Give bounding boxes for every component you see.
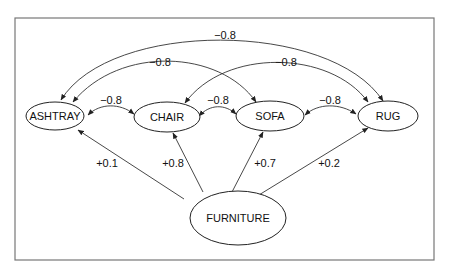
label-furniture-chair: +0.8 [162,157,184,169]
label-ashtray-rug: −0.8 [214,29,236,41]
node-rug-label: RUG [376,110,400,122]
node-chair: CHAIR [134,102,200,132]
edge-chair-sofa [199,107,236,116]
label-furniture-rug: +0.2 [318,157,340,169]
label-furniture-ashtray: +0.1 [96,157,118,169]
node-rug: RUG [358,101,418,131]
furniture-category-diagram: ASHTRAY CHAIR SOFA RUG FURNITURE −0.8 −0… [0,0,449,270]
node-furniture-label: FURNITURE [206,212,270,224]
node-ashtray: ASHTRAY [26,102,84,130]
edge-ashtray-rug [61,40,383,101]
node-ashtray-label: ASHTRAY [29,110,81,122]
edge-ashtray-chair [88,106,134,115]
label-ashtray-sofa: −0.8 [149,56,171,68]
label-sofa-rug: −0.8 [319,94,341,106]
node-chair-label: CHAIR [150,111,184,123]
node-furniture: FURNITURE [190,191,286,245]
edge-sofa-rug [305,106,356,115]
label-ashtray-chair: −0.8 [100,94,122,106]
label-chair-rug: −0.8 [275,56,297,68]
label-chair-sofa: −0.8 [207,94,229,106]
node-sofa: SOFA [236,101,304,131]
label-furniture-sofa: +0.7 [254,157,276,169]
node-sofa-label: SOFA [255,110,285,122]
